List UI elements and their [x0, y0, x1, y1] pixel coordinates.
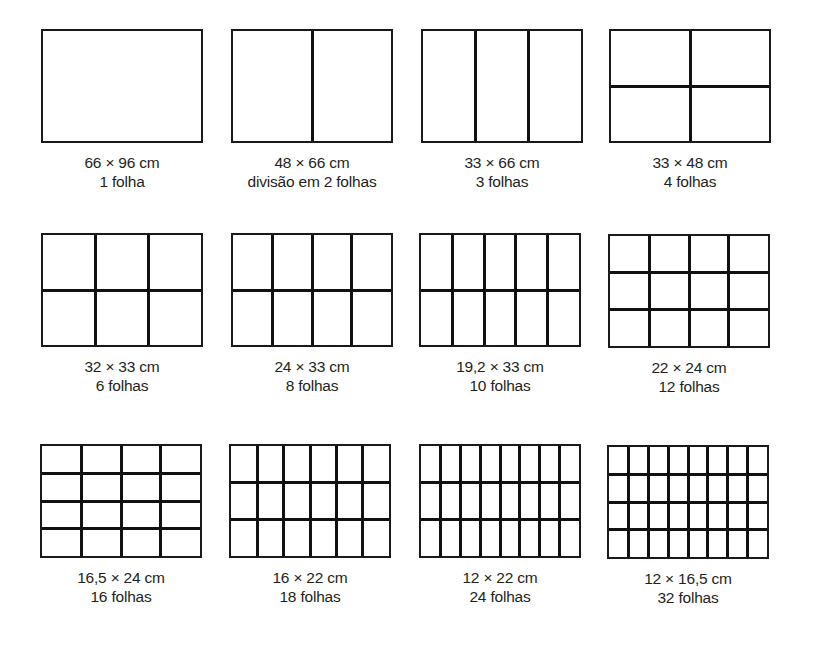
- format-size: 24 × 33 cm: [231, 357, 393, 376]
- vertical-cut-line: [518, 446, 521, 556]
- format-cell-8-sheets: 24 × 33 cm 8 folhas: [221, 233, 411, 443]
- vertical-cut-line: [538, 446, 541, 556]
- horizontal-cut-line: [609, 473, 767, 476]
- sheet-count: 16 folhas: [40, 587, 202, 606]
- sheet-grid: [41, 29, 203, 143]
- horizontal-cut-line: [609, 501, 767, 504]
- format-cell-12-sheets: 22 × 24 cm 12 folhas: [598, 234, 788, 444]
- horizontal-cut-line: [43, 289, 201, 292]
- sheet-grid: [40, 444, 202, 558]
- vertical-cut-line: [688, 236, 691, 346]
- horizontal-cut-line: [610, 271, 768, 274]
- format-size: 66 × 96 cm: [41, 153, 203, 172]
- sheet-count: 12 folhas: [608, 377, 770, 396]
- sheet-grid: [421, 29, 583, 143]
- horizontal-cut-line: [421, 518, 579, 521]
- sheet-count: 10 folhas: [419, 376, 581, 395]
- sheet-count: 6 folhas: [41, 376, 203, 395]
- sheet-grid: [608, 234, 770, 348]
- vertical-cut-line: [479, 446, 482, 556]
- horizontal-cut-line: [42, 472, 200, 475]
- sheet-count: divisão em 2 folhas: [231, 172, 393, 191]
- format-size: 12 × 22 cm: [419, 568, 581, 587]
- horizontal-cut-line: [421, 289, 579, 292]
- vertical-cut-line: [648, 236, 651, 346]
- paper-division-diagram: 66 × 96 cm 1 folha 48 × 66 cm divisão em…: [0, 0, 813, 655]
- sheet-count: 8 folhas: [231, 376, 393, 395]
- vertical-cut-line: [558, 446, 561, 556]
- sheet-count: 18 folhas: [229, 587, 391, 606]
- horizontal-cut-line: [610, 308, 768, 311]
- horizontal-cut-line: [233, 289, 391, 292]
- vertical-cut-line: [439, 446, 442, 556]
- vertical-cut-line: [527, 31, 530, 141]
- format-caption: 12 × 16,5 cm 32 folhas: [607, 569, 769, 607]
- format-caption: 19,2 × 33 cm 10 folhas: [419, 357, 581, 395]
- vertical-cut-line: [309, 446, 312, 556]
- vertical-cut-line: [282, 446, 285, 556]
- vertical-cut-line: [361, 446, 364, 556]
- sheet-grid: [41, 233, 203, 347]
- format-cell-10-sheets: 19,2 × 33 cm 10 folhas: [409, 233, 599, 443]
- horizontal-cut-line: [231, 481, 389, 484]
- sheet-grid: [231, 233, 393, 347]
- format-caption: 48 × 66 cm divisão em 2 folhas: [231, 153, 393, 191]
- sheet-count: 24 folhas: [419, 587, 581, 606]
- format-cell-32-sheets: 12 × 16,5 cm 32 folhas: [597, 445, 787, 655]
- sheet-count: 1 folha: [41, 172, 203, 191]
- sheet-grid: [229, 444, 391, 558]
- vertical-cut-line: [499, 446, 502, 556]
- horizontal-cut-line: [42, 527, 200, 530]
- horizontal-cut-line: [611, 85, 769, 88]
- format-caption: 22 × 24 cm 12 folhas: [608, 358, 770, 396]
- format-size: 16,5 × 24 cm: [40, 568, 202, 587]
- format-size: 33 × 48 cm: [609, 153, 771, 172]
- format-cell-2-sheets: 48 × 66 cm divisão em 2 folhas: [221, 29, 411, 239]
- format-size: 32 × 33 cm: [41, 357, 203, 376]
- vertical-cut-line: [256, 446, 259, 556]
- format-cell-3-sheets: 33 × 66 cm 3 folhas: [411, 29, 601, 239]
- format-cell-1-sheet: 66 × 96 cm 1 folha: [31, 29, 221, 239]
- format-caption: 32 × 33 cm 6 folhas: [41, 357, 203, 395]
- format-cell-24-sheets: 12 × 22 cm 24 folhas: [409, 444, 599, 654]
- vertical-cut-line: [474, 31, 477, 141]
- horizontal-cut-line: [231, 518, 389, 521]
- format-size: 33 × 66 cm: [421, 153, 583, 172]
- sheet-count: 32 folhas: [607, 588, 769, 607]
- vertical-cut-line: [459, 446, 462, 556]
- sheet-grid: [419, 444, 581, 558]
- sheet-grid: [419, 233, 581, 347]
- horizontal-cut-line: [42, 500, 200, 503]
- format-size: 16 × 22 cm: [229, 568, 391, 587]
- format-caption: 33 × 66 cm 3 folhas: [421, 153, 583, 191]
- sheet-grid: [609, 29, 771, 143]
- format-caption: 33 × 48 cm 4 folhas: [609, 153, 771, 191]
- format-size: 12 × 16,5 cm: [607, 569, 769, 588]
- vertical-cut-line: [335, 446, 338, 556]
- format-caption: 16,5 × 24 cm 16 folhas: [40, 568, 202, 606]
- sheet-grid: [231, 29, 393, 143]
- sheet-count: 4 folhas: [609, 172, 771, 191]
- format-size: 22 × 24 cm: [608, 358, 770, 377]
- vertical-cut-line: [311, 31, 314, 141]
- format-size: 48 × 66 cm: [231, 153, 393, 172]
- vertical-cut-line: [727, 236, 730, 346]
- format-caption: 66 × 96 cm 1 folha: [41, 153, 203, 191]
- sheet-count: 3 folhas: [421, 172, 583, 191]
- format-size: 19,2 × 33 cm: [419, 357, 581, 376]
- format-caption: 12 × 22 cm 24 folhas: [419, 568, 581, 606]
- horizontal-cut-line: [421, 481, 579, 484]
- format-caption: 24 × 33 cm 8 folhas: [231, 357, 393, 395]
- format-cell-6-sheets: 32 × 33 cm 6 folhas: [31, 233, 221, 443]
- format-cell-16-sheets: 16,5 × 24 cm 16 folhas: [30, 444, 220, 654]
- format-cell-18-sheets: 16 × 22 cm 18 folhas: [219, 444, 409, 654]
- sheet-grid: [607, 445, 769, 559]
- format-caption: 16 × 22 cm 18 folhas: [229, 568, 391, 606]
- horizontal-cut-line: [609, 528, 767, 531]
- format-cell-4-sheets: 33 × 48 cm 4 folhas: [599, 29, 789, 239]
